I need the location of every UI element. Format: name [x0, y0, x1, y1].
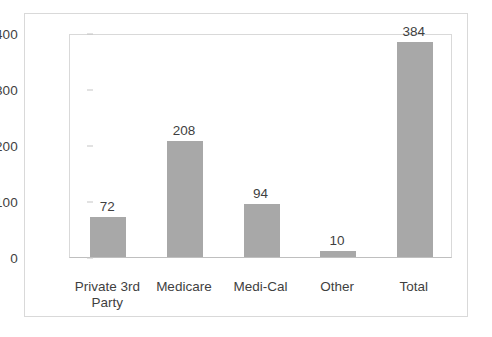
y-tick-label: 300 [0, 83, 18, 98]
x-category-label: Medi-Cal [233, 279, 287, 295]
x-category-label-line: Total [399, 279, 428, 295]
chart-frame: 0100200300400 Private 3rdPartyMedicareMe… [24, 13, 468, 317]
x-category-label-line: Medi-Cal [233, 279, 287, 295]
y-tick-mark [87, 146, 93, 147]
x-category-label-line: Medicare [156, 279, 212, 295]
y-tick-label: 400 [0, 27, 18, 42]
y-tick-label: 100 [0, 195, 18, 210]
y-axis: 0100200300400 [25, 14, 467, 316]
y-tick-mark [87, 258, 93, 259]
bar-value-label: 208 [173, 123, 196, 138]
bar-value-label: 10 [330, 233, 345, 248]
bar-value-label: 384 [402, 24, 425, 39]
x-category-label-line: Party [75, 295, 140, 311]
y-tick-mark [87, 90, 93, 91]
x-category-label: Total [399, 279, 428, 295]
y-tick-label: 200 [0, 139, 18, 154]
x-category-label: Medicare [156, 279, 212, 295]
y-tick-mark [87, 34, 93, 35]
x-category-label-line: Private 3rd [75, 279, 140, 295]
bar-value-label: 94 [253, 186, 268, 201]
x-category-label: Private 3rdParty [75, 279, 140, 311]
x-category-label-line: Other [320, 279, 354, 295]
y-tick-mark [87, 202, 93, 203]
y-tick-label: 0 [10, 251, 18, 266]
bar-value-label: 72 [100, 199, 115, 214]
x-category-label: Other [320, 279, 354, 295]
